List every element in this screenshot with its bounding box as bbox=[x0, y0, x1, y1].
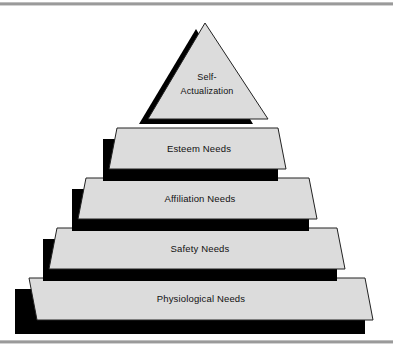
pyramid-tier-self-actualization[interactable]: Self- Actualization bbox=[139, 23, 268, 124]
figure-frame: Physiological Needs Safety Needs Affilia… bbox=[0, 0, 393, 352]
tier-label-self-actualization-line1: Self- bbox=[197, 72, 216, 82]
tier-label-safety-needs: Safety Needs bbox=[171, 243, 230, 254]
tier-label-esteem-needs: Esteem Needs bbox=[167, 143, 231, 154]
pyramid-tier-esteem-needs[interactable]: Esteem Needs bbox=[103, 128, 286, 181]
pyramid-tier-affiliation-needs[interactable]: Affiliation Needs bbox=[72, 178, 317, 231]
pyramid-tier-safety-needs[interactable]: Safety Needs bbox=[43, 228, 345, 281]
pyramid-tier-physiological-needs[interactable]: Physiological Needs bbox=[15, 278, 373, 334]
tier-face-self-actualization bbox=[148, 23, 268, 119]
tier-label-physiological-needs: Physiological Needs bbox=[157, 293, 245, 304]
tier-label-self-actualization-line2: Actualization bbox=[181, 86, 234, 96]
tier-label-affiliation-needs: Affiliation Needs bbox=[164, 193, 235, 204]
maslow-pyramid-diagram: Physiological Needs Safety Needs Affilia… bbox=[0, 0, 393, 352]
